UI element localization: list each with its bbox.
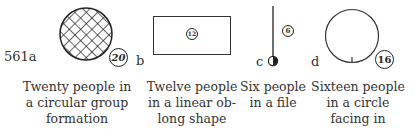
caption-b: Twelve people in a linear ob- long shape (142, 79, 242, 127)
panel-letter-b: b (136, 53, 144, 68)
count-badge-b: 12 (186, 28, 198, 40)
caption-a: Twenty people in a circular group format… (22, 79, 132, 127)
count-d: 16 (378, 54, 392, 65)
panel-letter-c: c (256, 54, 263, 69)
count-a: 20 (112, 52, 126, 63)
file-line-icon (266, 6, 280, 66)
caption-c: Six people in a file (238, 79, 308, 111)
crosshatched-circle-icon (58, 6, 114, 62)
count-b: 12 (188, 30, 196, 37)
panel-letter-d: d (311, 54, 319, 69)
figure-number-label: 561a (4, 49, 37, 64)
count-badge-c: 6 (282, 25, 294, 37)
count-badge-d: 16 (375, 50, 394, 69)
open-circle-icon (324, 8, 380, 66)
count-badge-a: 20 (109, 48, 128, 67)
count-c: 6 (286, 26, 291, 35)
caption-d: Sixteen people in a circle facing in (305, 79, 411, 127)
